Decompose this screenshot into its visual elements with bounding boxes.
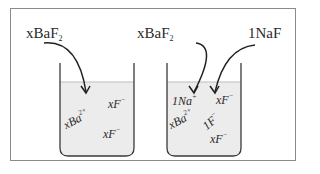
right-reagent-label-baf2: xBaF2 <box>137 26 174 43</box>
ion-f: xF− <box>216 93 233 106</box>
ion-na: 1Na+ <box>172 94 197 107</box>
right-reagent-label-naf: 1NaF <box>248 26 281 41</box>
ion-f: xF− <box>210 132 227 145</box>
ion-f: xF− <box>103 127 120 140</box>
left-reagent-label: xBaF2 <box>26 26 63 43</box>
ion-f: xF− <box>108 97 125 110</box>
right-beaker <box>167 63 241 156</box>
